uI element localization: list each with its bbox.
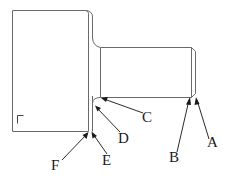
arrow-e-icon: [92, 132, 98, 139]
label-a: A: [207, 135, 218, 150]
shoulder-face-line: [86, 11, 101, 48]
label-b: B: [169, 150, 179, 165]
corner-mark-icon: [18, 116, 24, 124]
diagram-canvas: [0, 0, 229, 176]
label-e: E: [102, 153, 111, 168]
large-section-outline: [13, 11, 89, 132]
arrow-a-icon: [195, 97, 200, 105]
leader-c: [104, 99, 143, 113]
leader-f: [62, 135, 86, 160]
label-f: F: [51, 158, 59, 173]
label-c: C: [142, 110, 152, 125]
label-d: D: [118, 131, 129, 146]
leader-b: [177, 100, 189, 152]
small-shaft-outline: [101, 48, 196, 98]
arrow-b-icon: [186, 97, 191, 105]
fillet-lower: [93, 98, 101, 104]
leader-d: [97, 108, 120, 132]
